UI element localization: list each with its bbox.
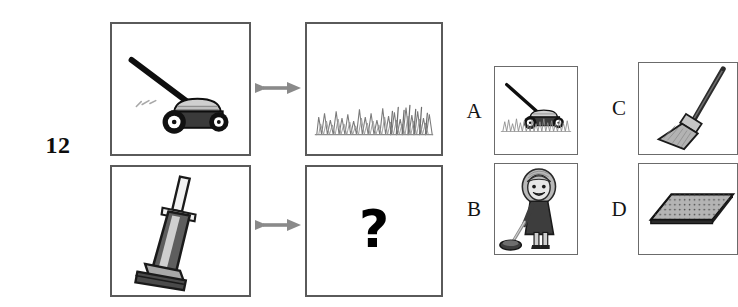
- broom-icon: [639, 63, 737, 154]
- question-mark: ?: [307, 167, 441, 295]
- option-panel-d[interactable]: [638, 163, 738, 255]
- option-letter-b: B: [462, 197, 486, 222]
- option-panel-a[interactable]: [494, 66, 578, 155]
- lawn-mower-on-grass-icon: [495, 67, 577, 154]
- option-panel-c[interactable]: [638, 62, 738, 155]
- stem-panel-lawn-mower: [110, 22, 251, 156]
- rug-carpet-icon: [639, 164, 737, 254]
- stem-panel-unknown: ?: [305, 165, 443, 297]
- arrow-bottom-row: [255, 216, 301, 234]
- option-letter-d: D: [607, 197, 631, 222]
- girl-vacuuming-icon: [495, 164, 577, 254]
- grass-lawn-icon: [307, 24, 441, 154]
- question-number: 12: [28, 132, 88, 159]
- upright-vacuum-icon: [112, 167, 249, 295]
- stem-panel-cut-grass: [305, 22, 443, 156]
- stem-panel-vacuum-cleaner: [110, 165, 251, 297]
- option-letter-c: C: [607, 96, 631, 121]
- lawn-mower-icon: [112, 24, 249, 154]
- option-panel-b[interactable]: [494, 163, 578, 255]
- option-letter-a: A: [462, 99, 486, 124]
- arrow-top-row: [255, 79, 301, 97]
